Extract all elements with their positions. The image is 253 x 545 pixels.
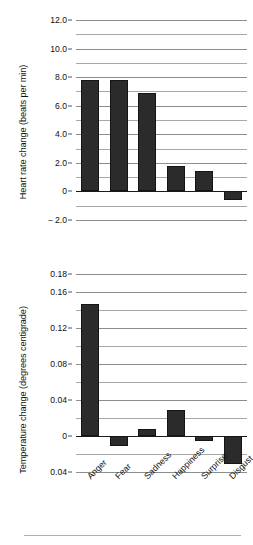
y-tick-label: 0	[62, 431, 67, 441]
y-tick-label: 6.0	[55, 101, 67, 111]
bar-heart-rate-anger	[81, 80, 99, 191]
y-tick-mark	[68, 400, 72, 401]
bar-temperature-sadness	[138, 429, 156, 436]
bar-heart-rate-sadness	[138, 93, 156, 192]
bar-temperature-surprise	[195, 436, 213, 441]
y-tick-mark	[68, 220, 72, 221]
bar-heart-rate-surprise	[195, 171, 213, 192]
figure: Heart rate change (beats per min) 12.010…	[0, 0, 253, 545]
y-tick-label: 0.16	[50, 287, 67, 297]
y-tick-mark	[68, 364, 72, 365]
y-tick-mark	[68, 274, 72, 275]
bar-series-heart-rate	[76, 20, 247, 220]
footer-divider	[24, 535, 241, 536]
y-tick-mark	[68, 328, 72, 329]
y-axis-title-heart-rate: Heart rate change (beats per min)	[16, 16, 30, 248]
x-axis-category-labels: AngerFearSadnessHappinessSurpriseDisgust	[76, 474, 247, 530]
y-tick-mark	[68, 292, 72, 293]
plot-area-heart-rate: 12.010.08.06.04.02.00− 2.0	[76, 20, 247, 220]
y-tick-mark	[68, 48, 72, 49]
y-tick-mark	[68, 77, 72, 78]
y-tick-label: 10.0	[50, 44, 67, 54]
bar-temperature-happiness	[167, 410, 185, 436]
y-tick-label: 8.0	[55, 72, 67, 82]
y-tick-mark	[68, 105, 72, 106]
y-tick-label: − 2.0	[48, 215, 67, 225]
y-tick-label: 0.08	[50, 359, 67, 369]
y-tick-label: 0.04	[50, 395, 67, 405]
bar-temperature-anger	[81, 304, 99, 436]
y-tick-mark	[68, 472, 72, 473]
y-tick-label: 0	[62, 186, 67, 196]
gridline-major	[76, 220, 247, 221]
plot-area-temperature: 0.180.160.120.080.0400.04	[76, 274, 247, 472]
y-tick-label: 0.12	[50, 323, 67, 333]
bar-series-temperature	[76, 274, 247, 472]
y-axis-ticks-temperature: 0.180.160.120.080.0400.04	[28, 274, 72, 472]
bar-heart-rate-disgust	[224, 191, 242, 200]
y-tick-mark	[68, 20, 72, 21]
bar-heart-rate-happiness	[167, 166, 185, 192]
bar-temperature-fear	[110, 436, 128, 446]
y-axis-title-temperature: Temperature change (degrees centigrade)	[16, 278, 30, 502]
y-tick-label: 0.18	[50, 269, 67, 279]
y-tick-mark	[68, 162, 72, 163]
y-tick-label: 2.0	[55, 158, 67, 168]
y-axis-ticks-heart-rate: 12.010.08.06.04.02.00− 2.0	[28, 20, 72, 220]
y-tick-label: 4.0	[55, 129, 67, 139]
y-tick-mark	[68, 191, 72, 192]
y-tick-mark	[68, 436, 72, 437]
y-tick-label: 12.0	[50, 15, 67, 25]
y-tick-mark	[68, 134, 72, 135]
gridline-major	[76, 472, 247, 473]
bar-heart-rate-fear	[110, 80, 128, 191]
y-tick-label: 0.04	[50, 467, 67, 477]
chart-panel-heart-rate: Heart rate change (beats per min) 12.010…	[0, 8, 253, 248]
